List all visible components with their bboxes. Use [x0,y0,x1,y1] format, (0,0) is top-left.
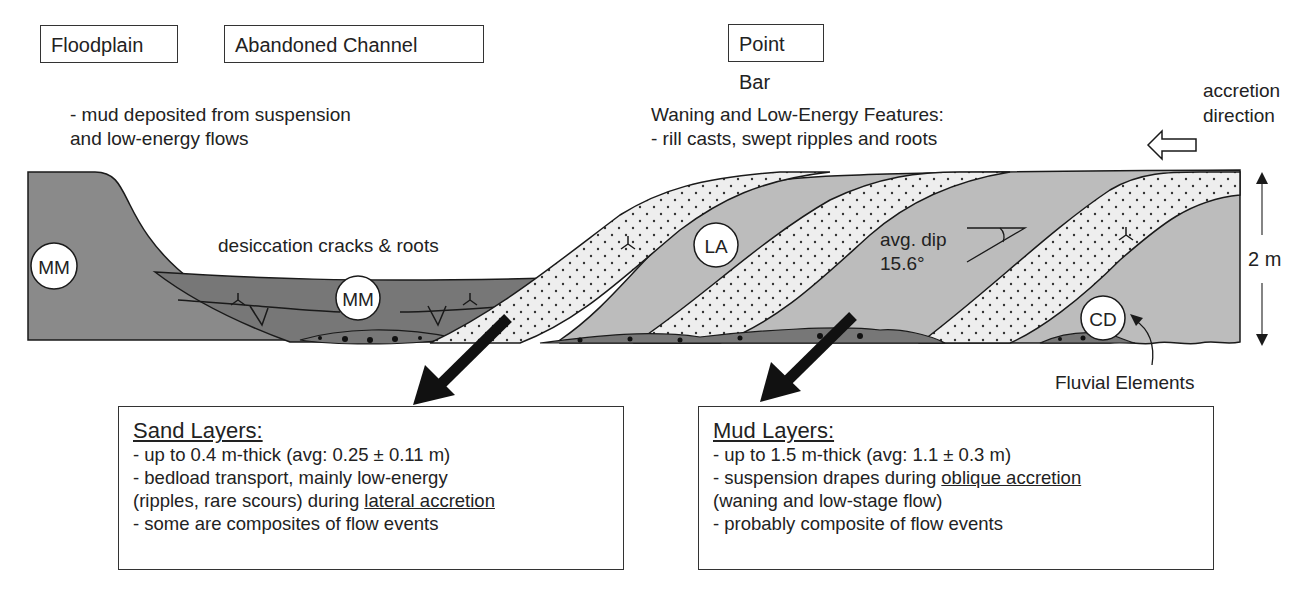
sand-line-2: - bedload transport, mainly low-energy [133,466,623,489]
mud-line-4: - probably composite of flow events [713,512,1213,535]
lateral-accretion-term: lateral accretion [364,490,495,511]
mm-floodplain-marker: MM [31,243,77,289]
la-marker: LA [694,223,738,267]
mud-layers-box: Mud Layers: - up to 1.5 m-thick (avg: 1.… [698,406,1214,570]
svg-text:CD: CD [1089,309,1116,330]
mud-line-3: (waning and low-stage flow) [713,489,1213,512]
sand-line-1: - up to 0.4 m-thick (avg: 0.25 ± 0.11 m) [133,443,623,466]
mud-line-1: - up to 1.5 m-thick (avg: 1.1 ± 0.3 m) [713,443,1213,466]
mud-layers-title: Mud Layers: [713,419,1213,443]
sand-line-3: (ripples, rare scours) during lateral ac… [133,489,623,512]
svg-text:MM: MM [38,257,70,278]
scale-label: 2 m [1248,248,1281,270]
cd-marker: CD [1081,296,1125,340]
dip-value: 15.6° [880,253,925,274]
svg-text:MM: MM [342,289,374,310]
desiccation-label: desiccation cracks & roots [218,235,439,256]
sand-layers-box: Sand Layers: - up to 0.4 m-thick (avg: 0… [118,406,624,570]
mm-channel-marker: MM [336,276,380,320]
svg-text:LA: LA [704,236,728,257]
fluvial-elements-label: Fluvial Elements [1055,372,1194,393]
sand-layers-title: Sand Layers: [133,419,623,443]
mud-line-2: - suspension drapes during oblique accre… [713,466,1213,489]
arrow-left-hollow-icon [1148,131,1196,159]
oblique-accretion-term: oblique accretion [941,467,1081,488]
sand-line-4: - some are composites of flow events [133,512,623,535]
dip-label: avg. dip [880,229,947,250]
